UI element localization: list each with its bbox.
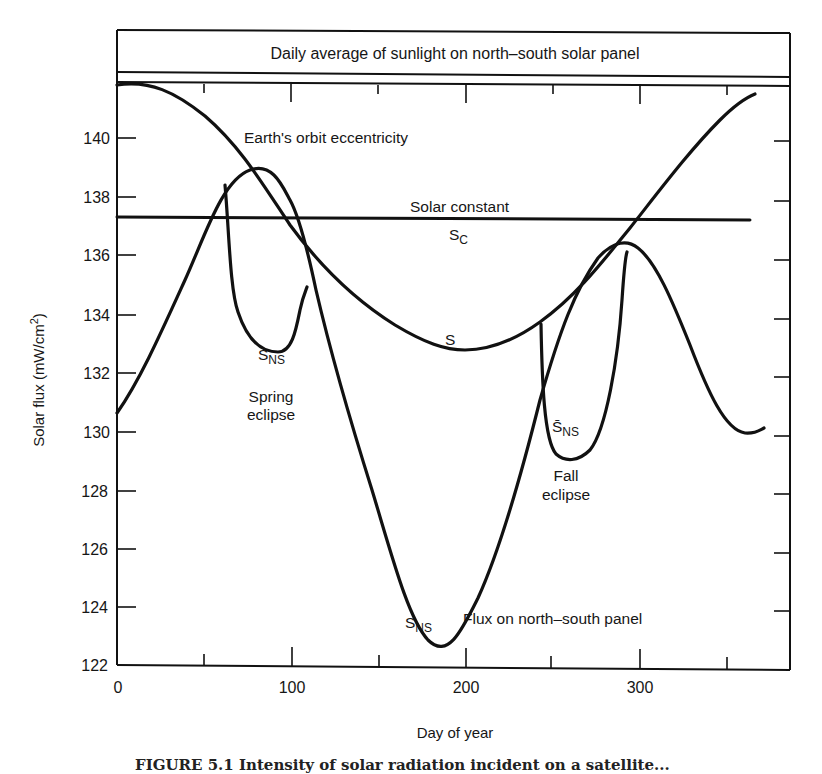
svg-text:136: 136 [83, 247, 110, 264]
spring-label: Spring [249, 388, 294, 405]
solar-constant-label: Solar constant [410, 198, 510, 215]
spring-sns-bar-label: S̄NS [258, 346, 285, 367]
svg-text:138: 138 [83, 189, 110, 206]
sns-label: SNS [405, 614, 432, 635]
figure-caption: FIGURE 5.1 Intensity of solar radiation … [135, 756, 670, 774]
svg-text:130: 130 [83, 424, 110, 441]
spring-eclipse-label: eclipse [247, 406, 295, 423]
svg-text:128: 128 [81, 483, 108, 500]
title-box: Daily average of sunlight on north–south… [117, 30, 790, 86]
fall-eclipse-label: eclipse [542, 486, 590, 503]
x-axis-label: Day of year [417, 724, 494, 741]
y-axis-label: Solar flux (mW/cm2) [28, 313, 47, 447]
svg-text:100: 100 [279, 679, 306, 696]
svg-text:140: 140 [83, 130, 110, 147]
x-tick-labels: 0 100 200 300 [114, 679, 654, 696]
fall-sns-bar-label: S̄NS [552, 418, 579, 439]
eccentricity-label: Earth's orbit eccentricity [244, 129, 408, 146]
flux-ns-label: Flux on north–south panel [463, 610, 642, 627]
svg-text:124: 124 [81, 599, 108, 616]
fall-label: Fall [554, 467, 579, 484]
svg-text:300: 300 [627, 679, 654, 696]
svg-text:0: 0 [114, 679, 123, 696]
svg-text:200: 200 [453, 679, 480, 696]
chart-title: Daily average of sunlight on north–south… [270, 45, 639, 62]
svg-text:122: 122 [81, 657, 108, 674]
annotations: Earth's orbit eccentricity Solar constan… [244, 129, 642, 635]
s-label: S [445, 331, 455, 348]
sns-flux-curve [117, 168, 764, 646]
sc-label: SC [449, 226, 468, 247]
svg-text:132: 132 [83, 365, 110, 382]
plot-frame [117, 84, 790, 670]
svg-text:126: 126 [81, 541, 108, 558]
y-tick-labels: 140 138 136 134 132 130 128 126 124 122 [81, 130, 110, 674]
svg-text:134: 134 [83, 307, 110, 324]
x-ticks [204, 84, 727, 669]
